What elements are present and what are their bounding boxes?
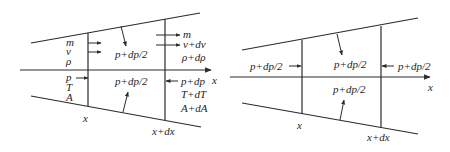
outlet-pressure-label: p+dp bbox=[180, 75, 205, 87]
top-wall-pressure-arrow bbox=[121, 26, 126, 46]
top-wall-pressure-arrow bbox=[337, 34, 342, 55]
top-wall bbox=[242, 18, 418, 50]
bottom-wall-pressure-arrow bbox=[123, 92, 128, 112]
x-axis-label: x bbox=[211, 74, 217, 86]
control-volume-figure: x x x+dx m v ρ p T A m v+dv ρ+dρ p+dp T+… bbox=[0, 0, 450, 152]
bottom-wall bbox=[242, 103, 418, 134]
outlet-velocity-label: v+dv bbox=[183, 38, 206, 50]
section-label-x-plus-dx: x+dx bbox=[366, 131, 390, 143]
inlet-area-label: A bbox=[65, 91, 73, 103]
left-diagram: x x x+dx m v ρ p T A m v+dv ρ+dρ p+dp T+… bbox=[20, 13, 217, 137]
section-label-x: x bbox=[296, 119, 302, 131]
inlet-pressure-label: p+dp/2 bbox=[249, 60, 283, 72]
inlet-density-label: ρ bbox=[65, 55, 71, 67]
x-axis-label: x bbox=[427, 81, 433, 93]
right-diagram: x x x+dx p+dp/2 p+dp/2 p+dp/2 p+dp/2 bbox=[230, 18, 433, 143]
top-wall-pressure-label: p+dp/2 bbox=[333, 58, 367, 70]
bottom-wall bbox=[31, 96, 201, 127]
bottom-wall-pressure-label: p+dp/2 bbox=[114, 75, 148, 87]
outlet-pressure-label: p+dp/2 bbox=[397, 60, 431, 72]
bottom-wall-pressure-arrow bbox=[340, 100, 344, 120]
outlet-temperature-label: T+dT bbox=[181, 88, 207, 100]
section-label-x: x bbox=[82, 112, 88, 124]
outlet-density-label: ρ+dρ bbox=[181, 51, 205, 63]
section-label-x-plus-dx: x+dx bbox=[151, 125, 175, 137]
bottom-wall-pressure-label: p+dp/2 bbox=[332, 83, 366, 95]
outlet-area-label: A+dA bbox=[180, 102, 208, 114]
top-wall bbox=[31, 13, 200, 43]
top-wall-pressure-label: p+dp/2 bbox=[114, 48, 148, 60]
